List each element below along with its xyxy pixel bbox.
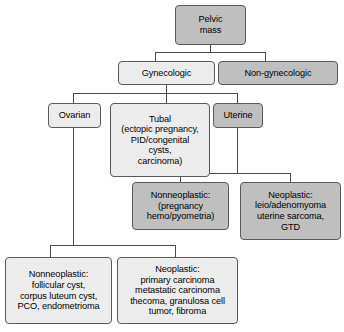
node-ovarian-nonneoplastic[interactable]: Nonneoplastic: follicular cyst, corpus l… [5,257,112,324]
node-non-gynecologic[interactable]: Non-gynecologic [218,61,338,85]
node-ovarian-neoplastic-label: Neoplastic: primary carcinoma metastatic… [120,264,235,317]
node-ovarian-nonneoplastic-label: Nonneoplastic: follicular cyst, corpus l… [8,269,109,311]
node-uterine[interactable]: Uterine [213,103,263,128]
node-gynecologic[interactable]: Gynecologic [118,61,215,85]
flowchart-canvas: Pelvic mass Gynecologic Non-gynecologic … [0,0,344,332]
node-uterine-neoplastic[interactable]: Neoplastic: leio/adenomyoma uterine sarc… [240,182,341,240]
node-uterine-label: Uterine [216,110,260,121]
node-uterine-nonneoplastic-label: Nonneoplastic: (pregnancy hemo/pyometria… [135,190,226,222]
node-uterine-neoplastic-label: Neoplastic: leio/adenomyoma uterine sarc… [243,190,338,232]
node-ovarian-neoplastic[interactable]: Neoplastic: primary carcinoma metastatic… [117,257,238,324]
node-non-gynecologic-label: Non-gynecologic [221,68,335,79]
node-pelvic-mass[interactable]: Pelvic mass [175,5,246,45]
node-tubal-label: Tubal (ectopic pregnancy, PID/congenital… [113,114,207,167]
node-gynecologic-label: Gynecologic [121,68,212,79]
node-ovarian-label: Ovarian [51,110,98,121]
node-pelvic-mass-label: Pelvic mass [178,14,243,35]
node-ovarian[interactable]: Ovarian [48,103,101,128]
node-tubal[interactable]: Tubal (ectopic pregnancy, PID/congenital… [110,103,210,177]
node-uterine-nonneoplastic[interactable]: Nonneoplastic: (pregnancy hemo/pyometria… [132,182,229,230]
